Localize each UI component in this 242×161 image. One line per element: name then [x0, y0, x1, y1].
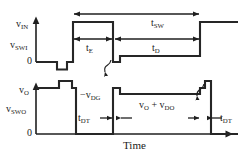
axis-label-v-swi: vSWI: [10, 40, 27, 51]
trace-v-swo: [36, 81, 238, 134]
annotation-label-t-d: tD: [152, 43, 160, 54]
axis-label-zero-bottom: 0: [27, 128, 32, 138]
annotation-label-neg-v-dg: −vDG: [80, 90, 100, 101]
timing-diagram-canvas: [0, 0, 242, 161]
axis-label-time: Time: [123, 140, 146, 151]
axis-label-v-o: vO: [19, 85, 29, 96]
axis-label-v-swo: vSWO: [6, 104, 26, 115]
annotation-label-t-e: tE: [86, 43, 93, 54]
annotation-label-t-dt-left: tDT: [78, 113, 90, 124]
time-axis: [36, 131, 233, 138]
top-y-axis: [33, 17, 40, 63]
annotation-label-vo-plus-vdo: vO + vDO: [139, 100, 174, 111]
axis-label-zero-top: 0: [27, 56, 32, 66]
annotation-label-t-sw: tSW: [151, 18, 164, 29]
callout-arrow-vdg: [105, 60, 111, 72]
trace-v-swi: [36, 22, 238, 70]
annotation-label-t-dt-right: tDT: [220, 113, 232, 124]
bottom-y-axis: [33, 83, 40, 135]
timing-diagram-figure: vIN vSWI 0 vO vSWO 0 tSW tE tD −vDG vO +…: [0, 0, 242, 161]
axis-label-v-in: vIN: [16, 19, 28, 30]
